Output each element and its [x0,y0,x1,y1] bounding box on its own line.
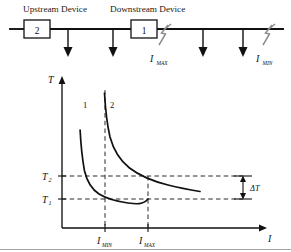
x-tick-label-imax-subscript: MAX [143,242,156,248]
downstream-device-box[interactable]: 1 [131,20,157,38]
load-tap-arrowhead-icon [109,47,118,57]
tcc-curve-2 [105,93,201,192]
tcc-curve-2-label: 2 [110,100,114,110]
load-tap-3 [199,29,208,57]
fault-imax-label: I [149,53,154,64]
downstream-device-label: Downstream Device [110,4,185,14]
chart-y-axis-label: T [48,74,55,85]
load-tap-arrowhead-icon [64,47,73,57]
x-tick-label-imin-subscript: MIN [101,242,112,248]
y-tick-label-t2-subscript: 2 [49,176,52,183]
upstream-device-box[interactable]: 2 [24,20,50,38]
x-tick-label-imin: I MIN [96,235,112,248]
fault-marker-imin: I MIN [255,24,275,66]
load-tap-arrowhead-icon [199,47,208,57]
x-tick-label-imax: I MAX [138,235,156,248]
load-tap-2 [109,29,118,57]
y-tick-label-t1: T 1 [42,194,52,207]
delta-t-label: ΔT [249,184,261,193]
tcc-curve-1 [80,130,148,204]
load-tap-arrowhead-icon [239,47,248,57]
tcc-curve-1-label: 1 [83,100,87,110]
y-tick-label-t2: T 2 [42,171,52,184]
x-tick-label-imax-base: I [138,235,143,246]
fault-imax-subscript: MAX [156,60,169,66]
fault-imin-label: I [255,53,260,64]
oneline-diagram: Upstream Device Downstream Device 2 1 [10,4,283,66]
chart-x-axis-label: I [267,233,272,244]
upstream-device-box-label: 2 [35,26,40,36]
fault-imin-subscript: MIN [262,60,273,66]
load-tap-4 [239,29,248,57]
x-axis-arrowhead-icon [259,225,267,232]
y-axis-arrowhead-icon [59,76,66,84]
tcc-chart: T I T 2 T 1 [42,74,272,248]
downstream-device-box-label: 1 [142,26,147,36]
upstream-device-label: Upstream Device [23,4,87,14]
x-tick-label-imin-base: I [96,235,101,246]
y-tick-label-t1-subscript: 1 [49,199,52,206]
load-tap-1 [64,29,73,57]
delta-t-annotation: ΔT [234,176,261,200]
protection-coordination-figure: Upstream Device Downstream Device 2 1 [0,0,291,252]
figure-canvas: Upstream Device Downstream Device 2 1 [0,0,291,252]
